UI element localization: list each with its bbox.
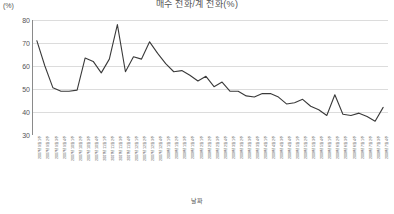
x-axis-tick-label: 2008년 4월 1주 [264,136,268,159]
y-axis-tick-label: 50 [4,86,30,93]
x-axis-tick-label: 2007년 10월 1주 [71,136,75,161]
x-axis-tick-label: 2008년 2월 3주 [216,136,220,159]
gridlines [32,21,388,136]
y-axis-tick-label: 30 [4,132,30,139]
x-axis-tick-label: 2007년 9월 2주 [46,136,50,159]
x-axis-tick-label: 2007년 10월 3주 [87,136,91,161]
x-axis-tick-label: 2008년 3월 2주 [240,136,244,159]
x-axis-tick-label: 2008년 5월 1주 [296,136,300,159]
x-axis-tick-label: 2007년 12월 2주 [143,136,147,161]
x-axis-tick-label: 2008년 7월 4주 [385,136,389,159]
x-axis-tick-label: 2008년 3월 4주 [256,136,260,159]
x-axis-tick-label: 2008년 3월 1주 [232,136,236,159]
y-axis-tick-label: 80 [4,17,30,24]
y-axis-tick-label: 70 [4,40,30,47]
y-axis-tick-label: 60 [4,63,30,70]
x-axis-tick-label: 2007년 11월 3주 [119,136,123,161]
x-axis-tick-label: 2008년 7월 3주 [377,136,381,159]
x-axis-tick-label: 2008년 1월 1주 [167,136,171,159]
x-axis-tick-label: 2007년 12월 4주 [159,136,163,161]
x-axis-tick-label: 2008년 2월 2주 [208,136,212,159]
x-axis-tick-label: 2007년 9월 1주 [38,136,42,159]
x-axis-tick-label: 2008년 4월 3주 [280,136,284,159]
x-axis-tick-label: 2008년 5월 2주 [304,136,308,159]
x-axis-tick-label: 2008년 6월 1주 [328,136,332,159]
x-axis-tick-label: 2007년 11월 2주 [111,136,115,161]
x-axis-tick-label: 2007년 11월 1주 [103,136,107,161]
y-axis-tick-label: 40 [4,109,30,116]
x-axis-tick-label: 2008년 7월 2주 [369,136,373,159]
plot-area [32,20,388,135]
x-axis-tick-label: 2007년 11월 4주 [127,136,131,161]
x-axis-tick-label: 2008년 5월 3주 [312,136,316,159]
x-axis-tick-label: 2008년 6월 2주 [336,136,340,159]
x-axis-tick-label: 2008년 2월 1주 [200,136,204,159]
x-axis-tick-label: 2008년 1월 3주 [183,136,187,159]
line-chart: 매수 전화/계 전화(%) (%) 807060504030 2007년 9월 … [0,0,394,214]
x-axis-tick-label: 2008년 6월 4주 [353,136,357,159]
x-axis-tick-label: 2007년 9월 3주 [55,136,59,159]
data-series-line [37,25,383,122]
x-axis-tick-labels: 2007년 9월 1주2007년 9월 2주2007년 9월 3주2007년 9… [32,136,388,188]
x-axis-tick-label: 2008년 5월 4주 [320,136,324,159]
x-axis-tick-label: 2007년 10월 2주 [79,136,83,161]
x-axis-tick-label: 2008년 1월 4주 [191,136,195,159]
x-axis-tick-label: 2008년 2월 4주 [224,136,228,159]
chart-svg [32,20,388,135]
x-axis-tick-label: 2008년 6월 3주 [344,136,348,159]
x-axis-tick-label: 2008년 4월 4주 [288,136,292,159]
x-axis-tick-label: 2008년 4월 2주 [272,136,276,159]
x-axis-tick-label: 2007년 9월 4주 [63,136,67,159]
chart-title: 매수 전화/계 전화(%) [0,0,394,9]
x-axis-tick-label: 2008년 7월 1주 [361,136,365,159]
x-axis-tick-label: 2008년 1월 2주 [175,136,179,159]
x-axis-tick-label: 2007년 12월 1주 [135,136,139,161]
x-axis-tick-label: 2007년 12월 3주 [151,136,155,161]
y-axis-tick-labels: 807060504030 [0,0,30,214]
x-axis-tick-label: 2007년 10월 4주 [95,136,99,161]
x-axis-title: 날짜 [0,196,394,205]
x-axis-tick-label: 2008년 3월 3주 [248,136,252,159]
